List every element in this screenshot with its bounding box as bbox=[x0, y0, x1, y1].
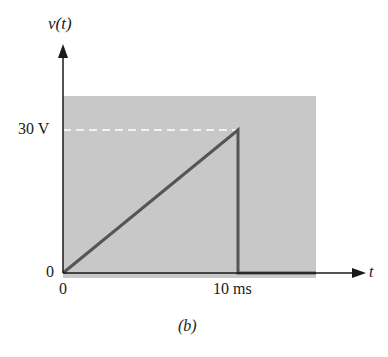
chart-canvas bbox=[0, 0, 388, 357]
y-axis-label: v(t) bbox=[48, 14, 72, 34]
x-origin-label: 0 bbox=[59, 280, 67, 298]
y-tick-label-30v: 30 V bbox=[18, 120, 49, 138]
y-axis-arrow-icon bbox=[58, 44, 68, 58]
shaded-region bbox=[63, 96, 316, 278]
x-axis-arrow-icon bbox=[352, 268, 366, 278]
x-tick-label-10ms: 10 ms bbox=[213, 280, 252, 298]
x-axis-label: t bbox=[369, 263, 373, 281]
y-origin-label: 0 bbox=[46, 263, 54, 281]
figure-caption: (b) bbox=[178, 317, 197, 335]
